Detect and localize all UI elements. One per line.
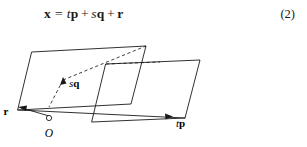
diagram-canvas: r sq tp O [0,34,307,147]
equation-line: x=tp+sq+r (2) [0,4,307,26]
equation-plus-1: + [78,6,91,21]
plane-outlines [18,46,200,122]
left-plane-parallelogram [18,46,146,110]
figure-page: x=tp+sq+r (2) [0,0,307,147]
equation-expression: x=tp+sq+r [44,4,124,24]
label-vector-sq: sq [69,77,80,89]
right-plane-parallelogram [92,60,200,122]
origin-point-marker [46,115,51,120]
equation-equals-sign: = [51,6,67,21]
equation-lhs-x: x [44,6,51,21]
vector-sq-arrowhead [60,77,67,85]
equation-number: (2) [280,4,295,24]
equation-term3-vector-r: r [117,6,123,21]
label-vector-tp: tp [176,117,185,129]
label-vector-r: r [4,105,9,117]
vector-sq-group [60,77,67,85]
label-origin: O [45,127,54,139]
vector-plane-diagram: r sq tp O [0,34,307,147]
equation-plus-2: + [104,6,117,21]
